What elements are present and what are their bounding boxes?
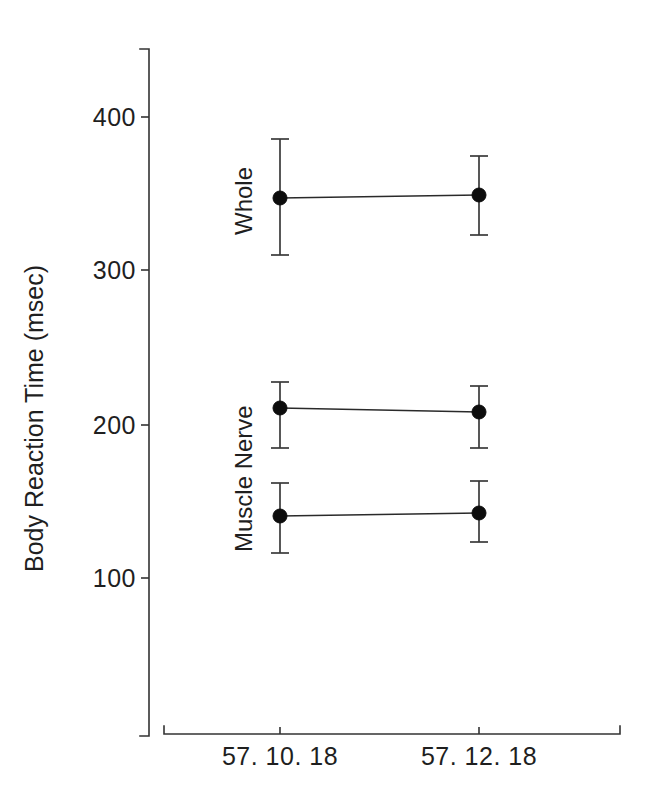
series-muscle (271, 481, 488, 553)
data-point-whole-2 (472, 188, 486, 202)
y-tick-label-200: 200 (52, 411, 136, 440)
series-whole (271, 139, 488, 255)
y-axis-title: Body Reaction Time (msec) (20, 265, 49, 572)
series-nerve (271, 382, 488, 448)
series-label-whole: Whole (230, 167, 258, 235)
series-line-muscle (280, 513, 479, 516)
data-point-muscle-1 (273, 509, 287, 523)
x-tick-label-1: 57. 10. 18 (222, 742, 338, 771)
series-line-nerve (280, 408, 479, 412)
data-point-nerve-1 (273, 401, 287, 415)
y-axis-line (140, 49, 149, 736)
series-line-whole (280, 195, 479, 198)
chart-figure: 400 300 200 100 57. 10. 18 57. 12. 18 Bo… (0, 0, 657, 810)
data-point-nerve-2 (472, 405, 486, 419)
x-tick-label-2: 57. 12. 18 (421, 742, 537, 771)
data-point-whole-1 (273, 191, 287, 205)
y-tick-label-100: 100 (52, 564, 136, 593)
series-label-muscle-nerve: Muscle Nerve (230, 405, 258, 552)
data-point-muscle-2 (472, 506, 486, 520)
y-tick-label-300: 300 (52, 256, 136, 285)
y-tick-label-400: 400 (52, 103, 136, 132)
x-axis-line (164, 726, 620, 734)
